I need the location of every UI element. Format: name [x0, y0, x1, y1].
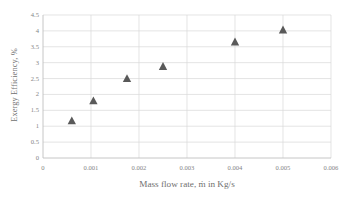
- x-axis-tick-label: 0.002: [119, 164, 159, 172]
- y-axis-tick-label: 1.5: [5, 106, 39, 114]
- y-axis-tick-label: 0: [5, 154, 39, 162]
- y-axis-tick-label: 2.5: [5, 75, 39, 83]
- y-axis-tick-label: 3.5: [5, 43, 39, 51]
- x-axis-tick-label: 0: [23, 164, 63, 172]
- data-point-markers: [68, 26, 288, 125]
- y-axis-tick-label: 1: [5, 122, 39, 130]
- y-axis-tick-label: 2: [5, 90, 39, 98]
- x-axis-tick-label: 0.003: [167, 164, 207, 172]
- plot-area: [43, 15, 331, 158]
- data-point-marker: [89, 96, 97, 104]
- data-point-marker: [68, 116, 76, 124]
- x-axis-tick-label: 0.001: [71, 164, 111, 172]
- y-axis-tick-label: 4: [5, 27, 39, 35]
- x-axis-tick-label: 0.004: [215, 164, 255, 172]
- plot-canvas: [43, 15, 331, 158]
- data-point-marker: [159, 62, 167, 70]
- y-axis-tick-label: 3: [5, 59, 39, 67]
- x-axis-title: Mass flow rate, ṁ in Kg/s: [43, 178, 331, 190]
- y-axis-tick-label: 4.5: [5, 11, 39, 19]
- data-point-marker: [231, 38, 239, 46]
- x-axis-tick-label: 0.006: [311, 164, 341, 172]
- data-point-marker: [123, 74, 131, 82]
- exergy-efficiency-scatter-chart: Exergy Efficiency, % 00.511.522.533.544.…: [0, 0, 341, 199]
- y-axis-tick-label: 0.5: [5, 138, 39, 146]
- x-axis-tick-label: 0.005: [263, 164, 303, 172]
- data-point-marker: [279, 26, 287, 34]
- vertical-gridlines: [91, 15, 331, 158]
